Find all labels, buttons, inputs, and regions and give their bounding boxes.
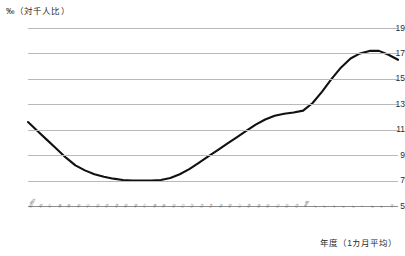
gridline [28, 181, 398, 182]
x-tick-label: 45 [124, 204, 129, 209]
x-tick-label: 38 [58, 204, 63, 209]
x-tick-label: 47 [143, 204, 148, 209]
x-tick-label: 57 [238, 204, 243, 209]
x-tick-label: 41 [86, 204, 91, 209]
plot-area [28, 28, 398, 206]
x-tick-label: 6 [352, 205, 356, 208]
x-tick-label: 52 [190, 204, 195, 209]
x-tick-label: 55 [219, 204, 224, 209]
gridline [28, 130, 398, 131]
x-tick-label: 8 [371, 205, 375, 208]
x-axis-tick-labels: 昭和35363738394041424344454647484950515253… [28, 207, 398, 231]
y-tick-label: 11 [383, 125, 405, 134]
x-tick-label: 3 [323, 205, 327, 208]
gridline [28, 104, 398, 105]
x-tick-label: 4 [333, 205, 337, 208]
x-tick-label: 5 [342, 205, 346, 208]
x-tick-label: 7 [361, 205, 365, 208]
x-tick-label: 51 [181, 204, 186, 209]
x-tick-label: 43 [105, 204, 110, 209]
x-axis-title: 年度（1カ月平均） [320, 236, 397, 248]
x-tick-label: 54 [209, 204, 214, 209]
x-tick-label: 53 [200, 204, 205, 209]
gridline [28, 28, 398, 29]
chart-container: ‰（対千人比） 昭和353637383940414243444546474849… [0, 0, 405, 256]
data-series-line [28, 28, 398, 206]
x-tick-label: 59 [257, 204, 262, 209]
x-tick-label: 62 [285, 204, 290, 209]
x-tick-label: 50 [172, 204, 177, 209]
x-tick-label: 56 [228, 204, 233, 209]
x-tick-label: 63 [295, 204, 300, 209]
x-tick-label: 44 [115, 204, 120, 209]
y-tick-label: 9 [383, 151, 405, 160]
x-tick-label: 37 [48, 204, 53, 209]
gridline [28, 155, 398, 156]
x-tick-label: 60 [266, 204, 271, 209]
y-tick-label: 13 [383, 100, 405, 109]
y-tick-label: 5 [383, 202, 405, 211]
x-tick-label: 36 [39, 204, 44, 209]
x-tick-label: 39 [67, 204, 72, 209]
x-tick-label: 58 [247, 204, 252, 209]
y-tick-label: 19 [383, 24, 405, 33]
x-tick-label: 61 [276, 204, 281, 209]
y-tick-label: 15 [383, 74, 405, 83]
y-tick-label: 7 [383, 176, 405, 185]
gridline [28, 79, 398, 80]
x-tick-label: 49 [162, 204, 167, 209]
x-tick-label: 2 [314, 205, 318, 208]
x-tick-label: 40 [77, 204, 82, 209]
gridline [28, 53, 398, 54]
y-axis-unit-label: ‰（対千人比） [6, 4, 70, 16]
x-tick-label: 42 [96, 204, 101, 209]
y-tick-label: 17 [383, 49, 405, 58]
x-tick-label: 48 [153, 204, 158, 209]
x-tick-label: 46 [134, 204, 139, 209]
